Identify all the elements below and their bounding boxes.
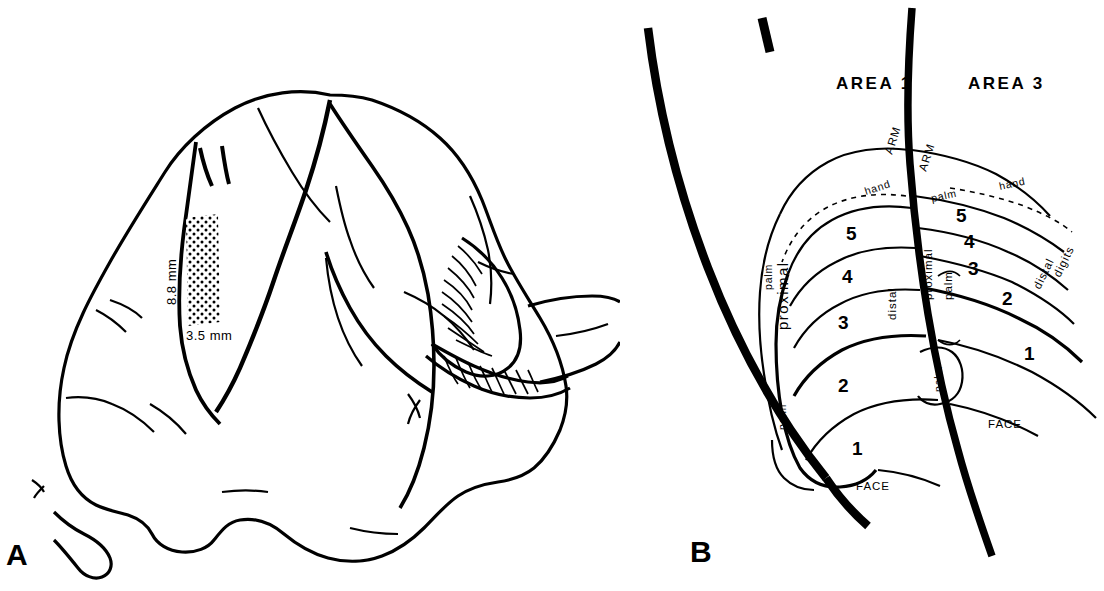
area3-digit-3: 3 (968, 258, 979, 279)
area1-digit-2: 2 (838, 375, 849, 396)
sulcus-sylvian (336, 186, 374, 288)
area-3-label: AREA 3 (968, 74, 1045, 93)
central-palm-label: palm (932, 366, 944, 392)
area1-palm-outer-label: palm (762, 264, 774, 290)
area1-divider-4-3 (794, 290, 920, 348)
sulcus-frontal-1 (110, 300, 142, 318)
sulcus-temporal-pole (408, 394, 420, 424)
area1-proximal-label: proximal (774, 261, 791, 330)
sulcus-sylvian-heavy (326, 252, 432, 392)
brainstem (528, 296, 620, 306)
area3-arm-border (912, 150, 1050, 216)
area1-digit-3: 3 (838, 312, 849, 333)
area1-face-label: FACE (856, 480, 890, 492)
tick-mark-icon (762, 18, 770, 52)
brainstem-inner-line (556, 324, 608, 336)
area3-arm-label: ARM (916, 142, 936, 173)
area1-palm-lower-label: palm (776, 404, 788, 430)
area1-divider-2-1 (806, 400, 938, 460)
sulcus-frontal-4 (150, 404, 186, 434)
left-thick-curve (648, 28, 826, 478)
area3-palm-hand-palm-label: palm (930, 187, 958, 204)
area1-hand-dashed-line (782, 195, 906, 263)
scale-label-horizontal: 3.5 mm (186, 328, 232, 343)
olfactory-bulb (54, 512, 111, 578)
sulcus-ventral-1 (222, 491, 268, 493)
area1-digit-4: 4 (842, 266, 853, 287)
sulcus-parietal-2 (330, 104, 434, 508)
area1-distal-label: distal (886, 287, 898, 320)
brainstem-lower (540, 342, 620, 382)
area3-hand-dashed-line (950, 188, 1072, 232)
stipple-recording-zone (186, 214, 220, 326)
superior-sulcus-mark-1 (200, 148, 212, 186)
panel-a-label: A (6, 538, 28, 572)
sulcus-temporal-1 (326, 258, 362, 366)
area1-arm-border (780, 149, 910, 215)
sulcus-ventral-2 (350, 528, 398, 534)
sulcus-parietal-1 (258, 108, 330, 222)
panel-b-cortical-map: AREA 1 AREA 3 5 4 3 2 1 ARM hand palm pr… (620, 0, 1104, 591)
sulcus-frontal-3 (66, 397, 154, 432)
sulcus-orbital-mark (32, 480, 44, 498)
area3-digit-2: 2 (1002, 288, 1013, 309)
area1-hand-label: hand (863, 177, 892, 197)
panel-a-brain-drawing: 8.8 mm 3.5 mm (0, 0, 620, 591)
area1-arm-label: ARM (882, 125, 902, 156)
area3-palm-column-label: palm (942, 271, 954, 300)
superior-sulcus-mark-2 (222, 146, 229, 184)
area1-divider-3-2 (794, 336, 926, 396)
sulcus-frontal-2 (96, 310, 126, 332)
area1-digit-5: 5 (846, 223, 857, 244)
area1-digit-1: 1 (852, 438, 863, 459)
area3-digit-1: 1 (1024, 343, 1035, 364)
panel-b-label: B (690, 535, 712, 569)
area3-digit-5: 5 (956, 205, 967, 226)
figure-canvas: 8.8 mm 3.5 mm (0, 0, 1104, 591)
area-1-label: AREA 1 (836, 74, 913, 93)
area3-proximal-label: proximal (922, 249, 934, 300)
central-sulcus (216, 100, 330, 412)
scale-label-vertical: 8.8 mm (164, 259, 179, 305)
area3-digit-4: 4 (964, 231, 975, 252)
